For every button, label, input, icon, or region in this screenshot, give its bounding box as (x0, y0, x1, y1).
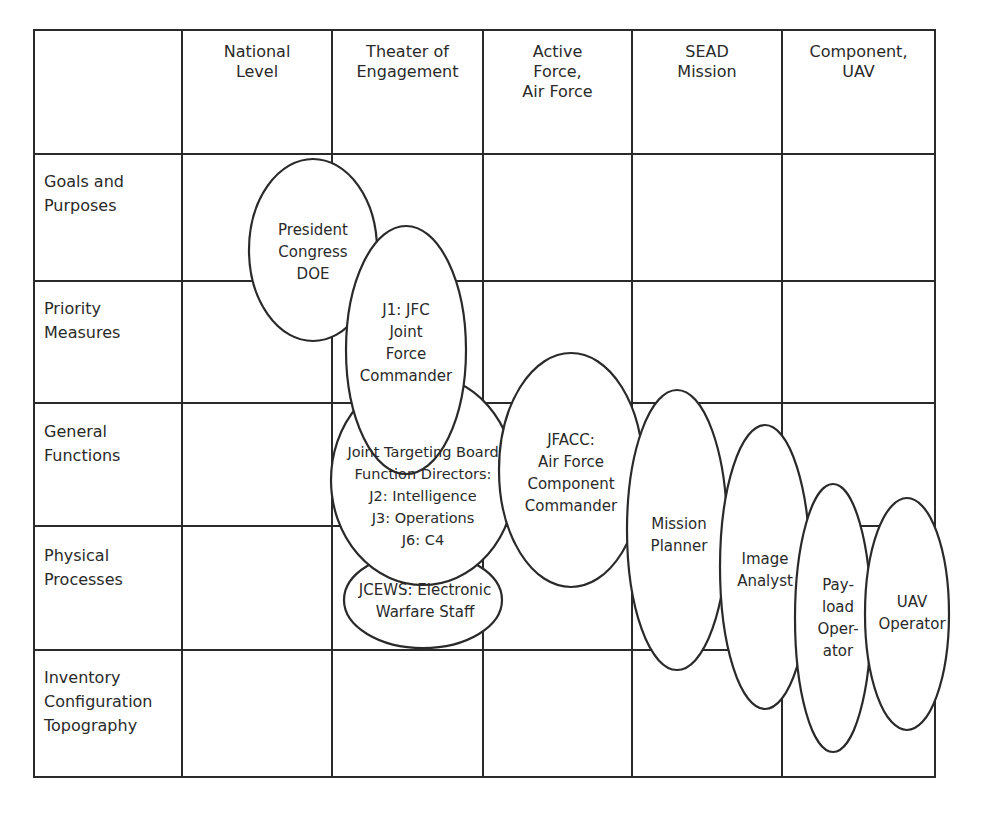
row-label-goals: Goals and Purposes (44, 170, 124, 218)
column-header-sead: SEAD Mission (632, 42, 782, 82)
ellipse-label-mission-planner: Mission Planner (651, 513, 708, 557)
row-label-physical: Physical Processes (44, 544, 123, 592)
ellipse-label-payload-operator: Pay- load Oper- ator (817, 574, 858, 662)
column-header-component-uav: Component, UAV (782, 42, 935, 82)
row-label-priority: Priority Measures (44, 297, 120, 345)
ellipse-label-president: President Congress DOE (278, 219, 348, 285)
ellipse-label-jtb: Joint Targeting Board Function Directors… (347, 441, 498, 551)
row-label-general: General Functions (44, 420, 120, 468)
ellipse-label-jcews: JCEWS: Electronic Warfare Staff (359, 579, 492, 623)
row-label-inventory: Inventory Configuration Topography (44, 666, 153, 738)
column-header-active-force: Active Force, Air Force (483, 42, 632, 102)
ellipse-label-jfc: J1: JFC Joint Force Commander (360, 299, 453, 387)
ellipse-label-image-analyst: Image Analyst (737, 548, 793, 592)
ellipse-label-uav-operator: UAV Operator (878, 591, 945, 635)
column-header-national: National Level (182, 42, 332, 82)
ellipse-label-jfacc: JFACC: Air Force Component Commander (525, 429, 618, 517)
column-header-theater: Theater of Engagement (332, 42, 483, 82)
